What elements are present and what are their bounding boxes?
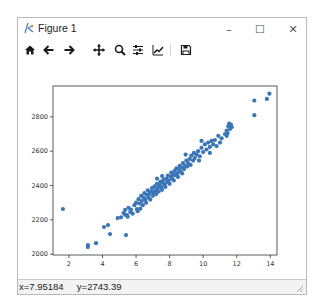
data-point [136, 209, 140, 213]
data-point [218, 141, 222, 145]
axes-frame [53, 86, 277, 255]
data-point [252, 99, 256, 103]
magnifier-icon [114, 44, 126, 56]
y-tick-label: 2800 [31, 113, 48, 121]
data-point [129, 207, 133, 211]
configure-subplots-button[interactable] [130, 42, 146, 58]
data-point [168, 182, 172, 186]
save-button[interactable] [178, 42, 194, 58]
x-tick-label: 8 [168, 260, 172, 268]
minimize-button[interactable]: – [216, 20, 242, 38]
arrow-right-icon [63, 44, 75, 56]
navigation-toolbar [18, 40, 306, 60]
data-point [267, 92, 271, 96]
resize-grip-icon[interactable] [296, 285, 304, 293]
home-button[interactable] [22, 42, 38, 58]
status-bar: x=7.95184 y=2743.39 [18, 279, 306, 294]
data-point [108, 232, 112, 236]
data-point [172, 178, 176, 182]
data-point [102, 225, 106, 229]
y-tick-label: 2000 [31, 250, 48, 258]
line-chart-icon [152, 44, 164, 56]
x-tick-label: 12 [233, 260, 241, 268]
data-point [265, 97, 269, 101]
data-point [199, 146, 203, 150]
maximize-button[interactable]: ☐ [247, 20, 273, 38]
home-icon [24, 44, 36, 56]
data-point [163, 185, 167, 189]
forward-button[interactable] [61, 42, 77, 58]
close-button[interactable]: ✕ [280, 20, 306, 38]
y-tick-label: 2400 [31, 182, 48, 190]
sliders-icon [132, 44, 144, 56]
data-point [208, 151, 212, 155]
floppy-disk-icon [180, 44, 192, 56]
back-button[interactable] [41, 42, 57, 58]
data-point [124, 233, 128, 237]
scatter-plot[interactable]: 246810121420002200240026002800 [18, 62, 306, 281]
data-point [225, 134, 229, 138]
data-point [94, 241, 98, 245]
data-point [160, 174, 164, 178]
data-point [106, 223, 110, 227]
data-point [176, 175, 180, 179]
data-point [180, 171, 184, 175]
figure-canvas[interactable]: 246810121420002200240026002800 [18, 62, 306, 281]
title-bar[interactable]: Figure 1 – ☐ ✕ [18, 18, 306, 40]
data-point [148, 198, 152, 202]
data-point [199, 139, 203, 143]
matplotlib-logo-icon [23, 22, 35, 34]
window-title: Figure 1 [38, 22, 77, 34]
data-point [252, 113, 256, 117]
move-icon [93, 44, 105, 56]
data-point [198, 154, 202, 158]
x-tick-label: 6 [134, 260, 138, 268]
data-point [126, 215, 130, 219]
x-tick-label: 2 [67, 260, 71, 268]
data-point [230, 125, 234, 129]
data-point [61, 207, 65, 211]
data-point [208, 145, 212, 149]
x-tick-label: 10 [199, 260, 207, 268]
data-point [220, 136, 224, 140]
y-tick-label: 2600 [31, 147, 48, 155]
figure-window: Figure 1 – ☐ ✕ [17, 17, 307, 295]
data-point [131, 212, 135, 216]
data-point [215, 144, 219, 148]
data-point [144, 201, 148, 205]
close-icon: ✕ [288, 23, 297, 36]
y-tick-label: 2200 [31, 216, 48, 224]
data-point [189, 163, 193, 167]
arrow-left-icon [43, 44, 55, 56]
toolbar-separator [170, 44, 171, 56]
x-tick-label: 14 [266, 260, 274, 268]
data-point [160, 188, 164, 192]
minimize-icon: – [226, 23, 232, 36]
data-point [201, 150, 205, 154]
data-point [86, 243, 90, 247]
x-tick-label: 4 [100, 260, 104, 268]
zoom-button[interactable] [112, 42, 128, 58]
data-point [213, 138, 217, 142]
cursor-coordinates: x=7.95184 y=2743.39 [19, 281, 121, 292]
edit-axis-button[interactable] [150, 42, 166, 58]
maximize-icon: ☐ [255, 23, 265, 36]
data-point [155, 177, 159, 181]
data-point [196, 149, 200, 153]
pan-button[interactable] [91, 42, 107, 58]
data-point [204, 147, 208, 151]
data-point [116, 216, 120, 220]
data-point [184, 153, 188, 157]
data-point [197, 159, 201, 163]
